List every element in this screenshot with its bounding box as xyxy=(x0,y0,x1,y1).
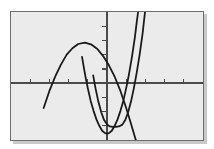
plot-frame xyxy=(10,11,204,141)
plot-canvas xyxy=(11,12,203,140)
curve-upward-parabola-left xyxy=(82,12,138,134)
curves-group xyxy=(44,12,145,140)
curve-upward-parabola-right xyxy=(93,12,145,127)
figure-shadow-right xyxy=(204,14,207,143)
axes-group xyxy=(11,12,203,140)
figure-shadow-bottom xyxy=(13,141,207,144)
graph-figure xyxy=(0,0,214,149)
